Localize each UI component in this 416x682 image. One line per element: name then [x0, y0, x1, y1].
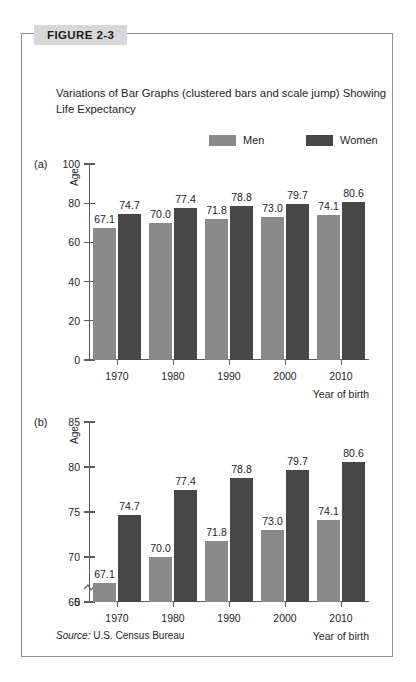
x-tick — [117, 601, 118, 607]
y-tick-label: 85 — [68, 416, 80, 428]
plot-area-a: 02040608010067.174.7197070.077.4198071.8… — [89, 164, 369, 360]
bar-women-2010 — [342, 202, 365, 360]
figure-container: Variations of Bar Graphs (clustered bars… — [21, 33, 393, 657]
bar-value-label: 67.1 — [94, 213, 114, 225]
bar-value-label: 70.0 — [150, 542, 170, 554]
y-axis-line-a — [89, 164, 90, 360]
bar-value-label: 77.4 — [175, 475, 195, 487]
bar-value-label: 71.8 — [206, 526, 226, 538]
x-tick — [173, 601, 174, 607]
x-tick-label-1980: 1980 — [161, 612, 184, 624]
bar-men-2010 — [317, 520, 340, 602]
panel-label-b: (b) — [34, 416, 47, 428]
bar-men-1970 — [93, 228, 116, 360]
y-tick-panel-b-75 — [84, 511, 95, 512]
bar-value-label: 77.4 — [175, 193, 195, 205]
x-tick — [229, 601, 230, 607]
y-tick-label: 20 — [68, 315, 80, 327]
x-tick-label-1980: 1980 — [161, 370, 184, 382]
x-tick — [341, 359, 342, 365]
bar-men-1970 — [93, 583, 116, 602]
bar-value-label: 79.7 — [287, 189, 307, 201]
x-tick-label-2010: 2010 — [329, 612, 352, 624]
bar-value-label: 79.7 — [287, 455, 307, 467]
bar-women-2010 — [342, 462, 365, 602]
y-tick-label: 100 — [62, 158, 80, 170]
bar-women-1990 — [230, 206, 253, 360]
figure-title: Variations of Bar Graphs (clustered bars… — [56, 86, 401, 117]
y-tick-panel-a-100 — [84, 163, 95, 164]
legend-label-women: Women — [340, 134, 378, 146]
y-tick-label: 0 — [74, 354, 80, 366]
x-axis-title: Year of birth — [313, 630, 369, 642]
bar-value-label: 74.1 — [318, 505, 338, 517]
source-prefix: Source: — [56, 630, 90, 641]
bar-women-1980 — [174, 490, 197, 602]
bar-women-1980 — [174, 208, 197, 360]
x-tick — [173, 359, 174, 365]
bar-men-1980 — [149, 223, 172, 360]
legend-item-men: Men — [209, 134, 264, 146]
bar-value-label: 80.6 — [343, 447, 363, 459]
bar-value-label: 78.8 — [231, 191, 251, 203]
legend-label-men: Men — [243, 134, 264, 146]
x-tick-label-1990: 1990 — [217, 370, 240, 382]
y-axis-title-a: Age — [69, 168, 80, 186]
chart-panel-b: (b) Age 6570758085067.174.7197070.077.41… — [22, 412, 394, 652]
y-tick-label-zero: 0 — [74, 596, 80, 608]
legend-item-women: Women — [306, 134, 378, 146]
bar-value-label: 73.0 — [262, 515, 282, 527]
x-tick-label-2000: 2000 — [273, 370, 296, 382]
y-tick-label: 60 — [68, 236, 80, 248]
y-tick-panel-b-70 — [84, 556, 95, 557]
y-tick-label: 70 — [68, 551, 80, 563]
bar-women-1970 — [118, 515, 141, 602]
bar-value-label: 78.8 — [231, 463, 251, 475]
bar-value-label: 70.0 — [150, 208, 170, 220]
bar-women-2000 — [286, 204, 309, 360]
x-tick-label-1990: 1990 — [217, 612, 240, 624]
x-tick — [341, 601, 342, 607]
plot-area-b: 6570758085067.174.7197070.077.4198071.87… — [89, 422, 369, 602]
bar-men-1990 — [205, 219, 228, 360]
bar-value-label: 67.1 — [94, 568, 114, 580]
x-tick — [117, 359, 118, 365]
x-axis-title: Year of birth — [313, 388, 369, 400]
source-text: U.S. Census Bureau — [93, 630, 184, 641]
x-tick-label-1970: 1970 — [105, 612, 128, 624]
y-tick-panel-b-85 — [84, 421, 95, 422]
bar-men-2000 — [261, 217, 284, 360]
bar-value-label: 74.1 — [318, 200, 338, 212]
y-tick-label: 80 — [68, 461, 80, 473]
figure-tag: FIGURE 2-3 — [34, 25, 127, 45]
y-axis-title-b: Age — [69, 426, 80, 444]
x-tick — [285, 601, 286, 607]
chart-panel-a: (a) Age 02040608010067.174.7197070.077.4… — [22, 154, 394, 404]
bar-value-label: 71.8 — [206, 204, 226, 216]
legend-swatch-women — [306, 135, 333, 146]
x-tick-label-2010: 2010 — [329, 370, 352, 382]
x-tick-label-2000: 2000 — [273, 612, 296, 624]
y-tick-panel-a-80 — [84, 203, 95, 204]
x-tick — [285, 359, 286, 365]
y-tick-label: 80 — [68, 197, 80, 209]
bar-women-1970 — [118, 214, 141, 360]
panel-label-a: (a) — [34, 158, 47, 170]
bar-men-2010 — [317, 215, 340, 360]
bar-value-label: 73.0 — [262, 202, 282, 214]
bar-women-1990 — [230, 478, 253, 602]
bar-value-label: 74.7 — [119, 199, 139, 211]
bar-value-label: 80.6 — [343, 187, 363, 199]
x-tick-label-1970: 1970 — [105, 370, 128, 382]
bar-men-2000 — [261, 530, 284, 602]
chart-legend: Men Women — [56, 134, 401, 152]
figure-tag-mask — [52, 64, 164, 71]
legend-swatch-men — [209, 135, 236, 146]
x-tick — [229, 359, 230, 365]
y-tick-label: 40 — [68, 276, 80, 288]
y-tick-label: 75 — [68, 506, 80, 518]
bar-women-2000 — [286, 470, 309, 602]
y-tick-panel-b-80 — [84, 466, 95, 467]
bar-value-label: 74.7 — [119, 500, 139, 512]
bar-men-1990 — [205, 541, 228, 602]
